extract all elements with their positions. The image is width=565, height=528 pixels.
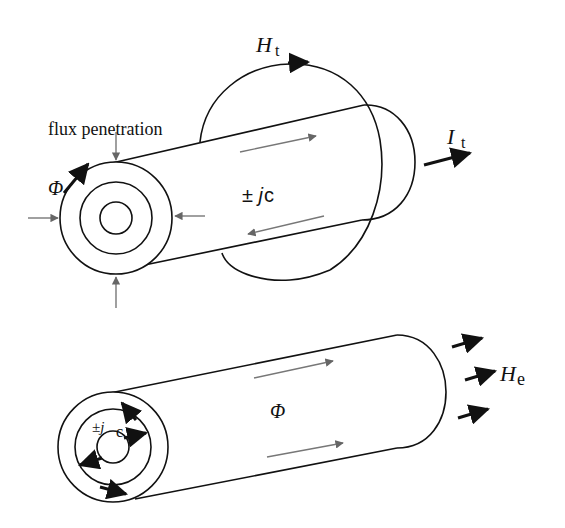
ht-label: H	[255, 32, 273, 57]
top-panel-transport-current: flux penetration Φ H t I t ± j c	[28, 32, 470, 308]
he-label-sub: e	[517, 369, 525, 389]
diagram-canvas: flux penetration Φ H t I t ± j c Φ H e	[0, 0, 565, 528]
ht-field-loop-bottom	[222, 253, 330, 280]
phi-flux-arrow-upper-icon	[254, 361, 333, 378]
bottom-cylinder-right-end	[397, 335, 446, 448]
bottom-cylinder-lower-edge	[135, 448, 397, 499]
phi-label-top: Φ	[48, 177, 63, 199]
it-arrow-icon	[424, 153, 470, 165]
jc-forward-arrow-icon	[240, 136, 316, 152]
bottom-cylinder-upper-edge	[110, 335, 397, 393]
jc-label-top-sub: c	[264, 184, 274, 206]
he-arrow-lower-icon	[458, 409, 488, 418]
ht-label-sub: t	[275, 42, 280, 59]
jc-backward-arrow-icon	[248, 216, 324, 234]
phi-label-bottom: Φ	[270, 400, 285, 422]
bottom-panel-external-field: Φ H e ±j c	[58, 335, 525, 502]
he-arrow-upper-icon	[452, 338, 482, 347]
jc-label-bottom: ±j	[92, 419, 104, 435]
jc-label-bottom-sub: c	[116, 423, 123, 440]
he-arrow-middle-icon	[465, 371, 495, 380]
top-cylinder-right-end	[362, 105, 415, 220]
flux-penetration-label: flux penetration	[48, 119, 162, 139]
phi-flux-arrow-lower-icon	[267, 443, 343, 457]
he-label: H	[499, 361, 517, 386]
ht-arrow-icon	[288, 62, 308, 63]
ht-field-loop	[200, 64, 382, 270]
it-label: I	[446, 124, 456, 149]
jc-label-top: ± j	[242, 184, 264, 206]
it-label-sub: t	[461, 134, 466, 151]
